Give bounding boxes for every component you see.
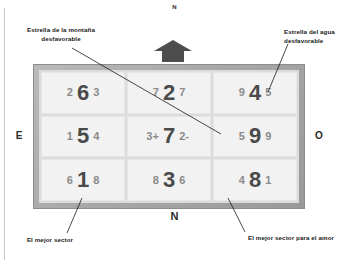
mountain-star: 4 bbox=[229, 175, 245, 186]
mountain-star: 8 bbox=[143, 175, 159, 186]
table-row[interactable]: 5 9 9 bbox=[213, 116, 297, 158]
annotation-water-star-unfavorable: Estrella del agua desfavorable bbox=[284, 28, 346, 46]
water-star: 2- bbox=[179, 131, 195, 142]
flying-star-chart-page: N N E O 2 6 3 7 2 7 9 4 5 1 bbox=[0, 0, 349, 265]
mountain-star: 9 bbox=[229, 87, 245, 98]
mountain-star: 6 bbox=[57, 175, 73, 186]
annotation-best-sector-love: El mejor sector para el amor bbox=[248, 234, 344, 243]
water-star: 1 bbox=[265, 175, 281, 186]
table-row[interactable]: 2 6 3 bbox=[41, 72, 125, 114]
water-star: 8 bbox=[93, 175, 109, 186]
compass-label-east: E bbox=[12, 131, 26, 141]
luoshu-grid-frame: 2 6 3 7 2 7 9 4 5 1 5 4 3+ 7 bbox=[33, 64, 305, 209]
compass-label-north-top: N bbox=[0, 4, 349, 10]
water-star: 4 bbox=[93, 131, 109, 142]
base-star: 7 bbox=[163, 125, 175, 147]
water-star: 7 bbox=[179, 87, 195, 98]
base-star: 2 bbox=[163, 82, 175, 104]
table-row[interactable]: 3+ 7 2- bbox=[127, 116, 211, 158]
base-star: 6 bbox=[77, 82, 89, 104]
luoshu-grid: 2 6 3 7 2 7 9 4 5 1 5 4 3+ 7 bbox=[39, 70, 299, 203]
base-star: 5 bbox=[77, 125, 89, 147]
mountain-star: 7 bbox=[143, 87, 159, 98]
annotation-mountain-star-unfavorable: Estrella de la montaña desfavorable bbox=[18, 26, 104, 44]
compass-label-north-bottom: N bbox=[0, 211, 349, 222]
table-row[interactable]: 8 3 6 bbox=[127, 159, 211, 201]
mountain-star: 1 bbox=[57, 131, 73, 142]
table-row[interactable]: 9 4 5 bbox=[213, 72, 297, 114]
water-star: 3 bbox=[93, 87, 109, 98]
north-arrow-icon bbox=[154, 40, 192, 62]
base-star: 9 bbox=[249, 125, 261, 147]
table-row[interactable]: 4 8 1 bbox=[213, 159, 297, 201]
base-star: 1 bbox=[77, 169, 89, 191]
base-star: 8 bbox=[249, 169, 261, 191]
water-star: 5 bbox=[265, 87, 281, 98]
water-star: 9 bbox=[265, 131, 281, 142]
table-row[interactable]: 6 1 8 bbox=[41, 159, 125, 201]
base-star: 4 bbox=[249, 82, 261, 104]
table-row[interactable]: 1 5 4 bbox=[41, 116, 125, 158]
annotation-best-sector: El mejor sector bbox=[18, 236, 82, 245]
compass-label-west: O bbox=[312, 131, 326, 141]
mountain-star: 2 bbox=[57, 87, 73, 98]
page-edge-rule bbox=[4, 8, 5, 260]
water-star: 6 bbox=[179, 175, 195, 186]
base-star: 3 bbox=[163, 169, 175, 191]
mountain-star: 3+ bbox=[143, 131, 159, 142]
table-row[interactable]: 7 2 7 bbox=[127, 72, 211, 114]
mountain-star: 5 bbox=[229, 131, 245, 142]
